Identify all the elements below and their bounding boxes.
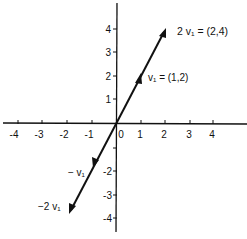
x-tick-label: -2 (60, 129, 69, 140)
label-neg-v1: − v₁ (68, 167, 86, 178)
arrowhead-icon (159, 28, 166, 38)
label-v1: v₁ = (1,2) (148, 72, 188, 83)
vector-v1-arrowhead (135, 73, 142, 84)
x-tick-label: 2 (161, 129, 167, 140)
x-tick-label: -3 (35, 129, 44, 140)
x-tick-label: 0 (118, 129, 124, 140)
x-tick-label: -1 (85, 129, 94, 140)
y-tick-label: -3 (103, 190, 112, 201)
arrowhead-icon (69, 203, 76, 214)
arrowhead-icon (135, 73, 142, 84)
y-tick-label: 3 (105, 47, 111, 58)
x-axis (3, 123, 247, 124)
y-tick-label: 4 (105, 24, 111, 35)
y-tick-label: -4 (103, 213, 112, 224)
label-2v1: 2 v₁ = (2,4) (177, 25, 228, 37)
label-neg-2v1: −2 v₁ (38, 201, 61, 212)
vector-diagram: -4 -3 -2 -1 0 1 2 3 4 4 3 2 1 -2 -3 -4 (0, 0, 247, 239)
y-tick-label: 2 (105, 71, 111, 82)
x-tick-label: 1 (137, 129, 143, 140)
y-tick-label: 1 (105, 94, 111, 105)
x-tick-label: 4 (209, 129, 215, 140)
x-tick-label: -4 (10, 129, 19, 140)
y-axis (116, 3, 117, 232)
x-tick-label: 3 (186, 129, 192, 140)
y-tick-label: -2 (103, 166, 112, 177)
